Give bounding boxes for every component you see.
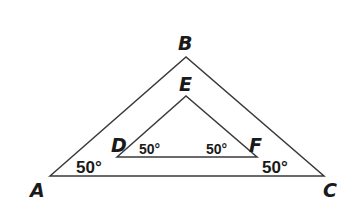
angle-c-label: 50° [262,158,288,177]
vertex-label-b: B [178,32,192,54]
vertex-label-c: C [323,179,337,201]
inner-triangle-def [117,96,257,157]
vertex-label-e: E [179,73,192,95]
angle-a-label: 50° [76,158,102,177]
triangles-figure: B A C E D F 50° 50° 50° 50° [0,0,352,205]
diagram-canvas: B A C E D F 50° 50° 50° 50° [0,0,352,205]
vertex-label-f: F [249,134,262,156]
angle-f-label: 50° [206,141,227,157]
vertex-label-d: D [111,134,127,156]
vertex-label-a: A [28,179,45,201]
angle-d-label: 50° [139,141,160,157]
